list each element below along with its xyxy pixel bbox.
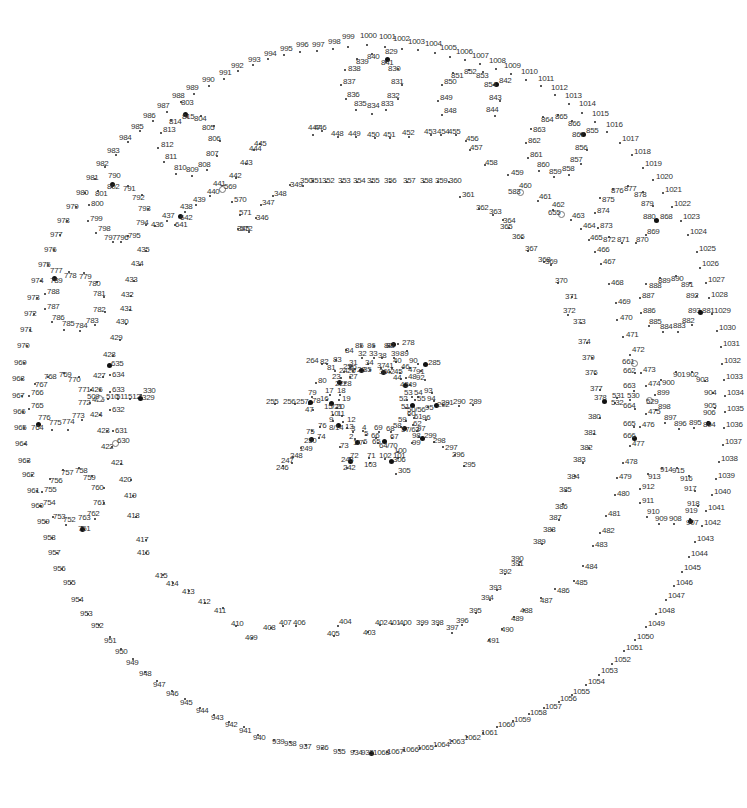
point-number-label: 913	[648, 473, 660, 481]
dot-marker-icon	[152, 120, 154, 122]
point-number-label: 1011	[538, 75, 554, 83]
point-number-label: 952	[91, 622, 103, 630]
dot-marker-icon	[206, 169, 208, 171]
point-number-label: 296	[452, 451, 464, 459]
point-number-label: 1000	[360, 32, 377, 40]
point-number-label: 487	[540, 597, 552, 605]
point-number-label: 899	[657, 389, 669, 397]
point-number-label: 345	[237, 225, 249, 233]
point-number-label: 452	[402, 129, 414, 137]
point-number-label: 765	[31, 402, 43, 410]
point-number-label: 427	[93, 372, 105, 380]
point-number-label: 264	[306, 357, 318, 365]
dot-marker-icon	[355, 109, 357, 111]
point-number-label: 330	[143, 387, 155, 395]
point-number-label: 802	[107, 183, 119, 191]
point-number-label: 842	[499, 77, 511, 85]
point-number-label: 777	[50, 267, 62, 275]
dot-marker-icon	[623, 650, 625, 652]
point-number-label: 762	[87, 510, 99, 518]
point-number-label: 346	[256, 214, 268, 222]
point-number-label: 832	[387, 92, 399, 100]
point-number-label: 11	[337, 410, 345, 418]
point-number-label: 74	[317, 433, 325, 441]
point-number-label: 789	[50, 277, 62, 285]
point-number-label: 484	[585, 563, 597, 571]
dot-marker-icon	[720, 346, 722, 348]
dot-marker-icon	[41, 491, 43, 493]
point-number-label: 298	[433, 437, 445, 445]
point-number-label: 857	[570, 156, 582, 164]
point-number-label: 384	[567, 473, 579, 481]
dot-marker-icon	[639, 297, 641, 299]
dot-marker-icon	[645, 626, 647, 628]
point-number-label: 778	[64, 272, 76, 280]
point-number-label: 795	[128, 232, 140, 240]
point-number-label: 966	[13, 408, 25, 416]
dot-marker-icon	[44, 293, 46, 295]
point-number-label: 99	[412, 439, 420, 447]
point-number-label: 976	[44, 246, 56, 254]
point-number-label: 1060	[498, 721, 515, 729]
point-number-label: 451	[383, 131, 395, 139]
point-number-label: 859	[549, 168, 561, 176]
point-number-label: 962	[22, 471, 34, 479]
point-number-label: 959	[37, 518, 49, 526]
point-number-label: 255	[266, 398, 278, 406]
point-number-label: 356	[384, 177, 396, 185]
dot-marker-icon	[397, 343, 399, 345]
point-number-label: 963	[18, 457, 30, 465]
point-number-label: 1047	[668, 592, 685, 600]
dot-marker-icon	[163, 161, 165, 163]
point-number-label: 989	[186, 84, 198, 92]
point-number-label: 830	[388, 65, 400, 73]
dot-marker-icon	[662, 192, 664, 194]
dot-marker-icon	[109, 374, 111, 376]
point-number-label: 389	[533, 538, 545, 546]
point-number-label: 837	[343, 78, 355, 86]
dot-marker-icon	[599, 532, 601, 534]
point-number-label: 764	[31, 424, 43, 432]
point-number-label: 41	[385, 362, 393, 370]
point-number-label: 483	[595, 541, 607, 549]
point-number-label: 835	[354, 100, 366, 108]
point-number-label: 472	[632, 346, 644, 354]
point-number-label: 984	[119, 134, 131, 142]
point-number-label: 382	[580, 444, 592, 452]
dot-marker-icon	[65, 524, 67, 526]
point-number-label: 401	[388, 619, 400, 627]
dot-marker-icon	[678, 428, 680, 430]
point-number-label: 1031	[723, 340, 740, 348]
point-number-label: 1063	[448, 738, 465, 746]
point-number-label: 973	[27, 294, 39, 302]
point-number-label: 757	[61, 469, 73, 477]
dot-marker-icon	[673, 523, 675, 525]
point-number-label: 979	[66, 203, 78, 211]
point-number-label: 936	[316, 744, 328, 752]
dot-marker-icon	[283, 54, 285, 56]
dot-marker-icon	[347, 46, 349, 48]
dot-marker-icon	[237, 70, 239, 72]
dot-marker-icon	[639, 502, 641, 504]
point-number-label: 954	[71, 596, 83, 604]
point-number-label: 972	[24, 310, 36, 318]
point-number-label: 71	[367, 452, 375, 460]
point-number-label: 423	[97, 427, 109, 435]
dot-marker-icon	[494, 115, 496, 117]
dot-marker-icon	[708, 297, 710, 299]
dot-marker-icon	[414, 399, 416, 401]
point-number-label: 1032	[724, 357, 741, 365]
point-number-label: 81	[327, 364, 335, 372]
point-number-label: 453	[424, 128, 436, 136]
point-number-label: 855	[586, 127, 598, 135]
point-number-label: 431	[120, 305, 132, 313]
point-number-label: 532	[611, 399, 623, 407]
point-number-label: 376	[585, 369, 597, 377]
dot-marker-icon	[723, 427, 725, 429]
point-number-label: 329	[142, 394, 154, 402]
point-number-label: 873	[600, 222, 612, 230]
dot-marker-icon	[677, 331, 679, 333]
point-number-label: 400	[399, 619, 411, 627]
point-number-label: 1007	[472, 52, 489, 60]
point-number-label: 1028	[711, 291, 728, 299]
